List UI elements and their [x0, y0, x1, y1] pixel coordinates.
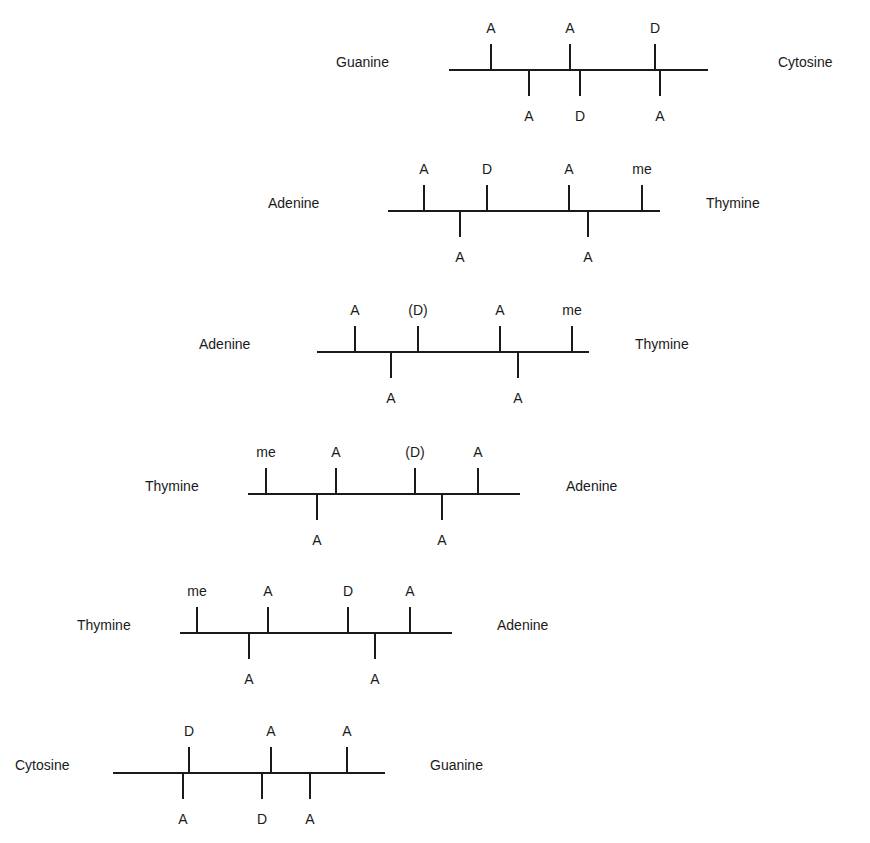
group-label-above: A [405, 583, 415, 599]
base-pair-row: AdenineThymineADAmeAA [268, 161, 760, 265]
group-label-below: A [583, 249, 593, 265]
group-label-below: A [455, 249, 465, 265]
base-pair-row: CytosineGuanineDAAADA [15, 723, 483, 827]
right-base-label: Thymine [635, 336, 689, 352]
left-base-label: Cytosine [15, 757, 70, 773]
group-label-above: D [343, 583, 353, 599]
left-base-label: Thymine [145, 478, 199, 494]
group-label-below: A [244, 671, 254, 687]
group-label-above: A [565, 20, 575, 36]
left-base-label: Adenine [268, 195, 320, 211]
group-label-below: A [370, 671, 380, 687]
right-base-label: Thymine [706, 195, 760, 211]
group-label-below: A [386, 390, 396, 406]
group-label-above: D [650, 20, 660, 36]
group-label-above: A [419, 161, 429, 177]
group-label-below: A [437, 532, 447, 548]
base-pair-row: ThymineAdeninemeADAAA [77, 583, 549, 687]
group-label-above: A [486, 20, 496, 36]
group-label-above: A [495, 302, 505, 318]
group-label-above: me [632, 161, 652, 177]
right-base-label: Cytosine [778, 54, 833, 70]
group-label-below: A [312, 532, 322, 548]
group-label-above: D [482, 161, 492, 177]
group-label-below: A [305, 811, 315, 827]
group-label-above: A [342, 723, 352, 739]
group-label-below: A [524, 108, 534, 124]
group-label-above: (D) [408, 302, 427, 318]
group-label-above: A [473, 444, 483, 460]
group-label-above: A [331, 444, 341, 460]
left-base-label: Adenine [199, 336, 251, 352]
left-base-label: Guanine [336, 54, 389, 70]
group-label-above: me [187, 583, 207, 599]
group-label-below: A [178, 811, 188, 827]
group-label-below: A [513, 390, 523, 406]
group-label-below: D [257, 811, 267, 827]
group-label-above: D [184, 723, 194, 739]
group-label-above: (D) [405, 444, 424, 460]
right-base-label: Guanine [430, 757, 483, 773]
group-label-above: me [256, 444, 276, 460]
group-label-above: A [263, 583, 273, 599]
base-pair-row: ThymineAdeninemeA(D)AAA [145, 444, 618, 548]
left-base-label: Thymine [77, 617, 131, 633]
base-pair-row: GuanineCytosineAADADA [336, 20, 833, 124]
base-pair-row: AdenineThymineA(D)AmeAA [199, 302, 689, 406]
group-label-below: A [655, 108, 665, 124]
group-label-above: me [562, 302, 582, 318]
base-pair-diagram: GuanineCytosineAADADAAdenineThymineADAme… [0, 0, 870, 843]
right-base-label: Adenine [566, 478, 618, 494]
group-label-above: A [350, 302, 360, 318]
group-label-above: A [266, 723, 276, 739]
right-base-label: Adenine [497, 617, 549, 633]
group-label-below: D [575, 108, 585, 124]
group-label-above: A [564, 161, 574, 177]
